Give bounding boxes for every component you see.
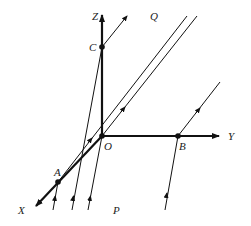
point-a	[55, 179, 61, 185]
label-q: Q	[150, 11, 158, 22]
ray-from-c	[102, 16, 127, 47]
point-o	[99, 133, 105, 139]
direction-arrow-upper-line	[88, 138, 92, 143]
coordinate-diagram	[0, 0, 251, 226]
ray-to-b	[165, 136, 178, 210]
label-a: A	[54, 167, 61, 178]
ray-to-c	[72, 47, 102, 210]
label-y: Y	[228, 131, 234, 142]
label-o: O	[104, 141, 112, 152]
label-x: X	[18, 205, 25, 216]
parallel-line-through-o	[102, 16, 197, 136]
parallel-line-through-a	[58, 16, 187, 182]
label-p: P	[113, 205, 120, 216]
point-b	[175, 133, 181, 139]
label-z: Z	[92, 11, 98, 22]
arrow-on-ray-from-b	[196, 108, 200, 113]
label-b: B	[179, 141, 186, 152]
point-c	[99, 44, 105, 50]
x-axis	[36, 136, 102, 206]
label-c: C	[89, 42, 96, 53]
direction-arrow-lower-line	[121, 107, 125, 112]
